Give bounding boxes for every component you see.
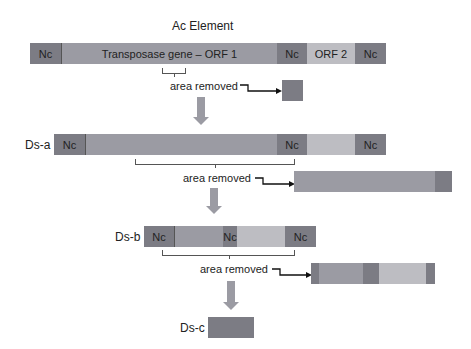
down-arrow-icon bbox=[193, 97, 209, 125]
ds-b-nc-left: Nc bbox=[144, 226, 174, 247]
ds-b-removed-bracket bbox=[162, 250, 295, 256]
ds-a-nc-middle-label: Nc bbox=[285, 139, 298, 151]
ac-removed-bracket bbox=[162, 68, 186, 74]
ac-removed-arrow-icon bbox=[238, 82, 282, 96]
down-arrow-icon bbox=[223, 281, 239, 310]
ac-element-bar: Nc Transposase gene – ORF 1 Nc ORF 2 Nc bbox=[30, 43, 386, 64]
ds-b-removed-arrow-icon bbox=[270, 266, 312, 280]
ds-a-orf1 bbox=[85, 134, 277, 155]
ds-a-nc-left-label: Nc bbox=[63, 139, 76, 151]
ds-b-removed-fragment bbox=[311, 263, 435, 284]
ac-orf1: Transposase gene – ORF 1 bbox=[61, 43, 277, 64]
ds-a-bar: Nc Nc Nc bbox=[54, 134, 386, 155]
ds-a-nc-middle: Nc bbox=[277, 134, 307, 155]
down-arrow-icon bbox=[206, 188, 222, 214]
ds-b-removed-label: area removed bbox=[200, 263, 268, 275]
ds-b-nc-right: Nc bbox=[285, 226, 316, 247]
ds-b-nc-middle-label: Nc bbox=[223, 231, 236, 243]
ac-removed-fragment bbox=[282, 80, 303, 101]
diagram-title: Ac Element bbox=[172, 19, 233, 33]
ds-a-nc-left: Nc bbox=[54, 134, 85, 155]
ds-a-orf2 bbox=[307, 134, 355, 155]
ds-a-removed-bracket bbox=[135, 159, 295, 165]
ac-orf1-label: Transposase gene – ORF 1 bbox=[102, 48, 237, 60]
ds-c-bar bbox=[208, 317, 254, 338]
ds-b-name: Ds-b bbox=[115, 230, 140, 244]
ac-orf2: ORF 2 bbox=[307, 43, 355, 64]
ds-b-orf2 bbox=[237, 226, 285, 247]
ds-a-nc-right: Nc bbox=[355, 134, 386, 155]
ds-b-nc-left-label: Nc bbox=[152, 231, 165, 243]
ac-nc-middle-label: Nc bbox=[285, 48, 298, 60]
ac-nc-right: Nc bbox=[355, 43, 386, 64]
ds-a-name: Ds-a bbox=[25, 138, 50, 152]
ds-a-removed-fragment bbox=[294, 171, 452, 192]
ds-b-nc-right-label: Nc bbox=[294, 231, 307, 243]
ac-nc-left: Nc bbox=[30, 43, 61, 64]
ds-a-removed-arrow-icon bbox=[253, 175, 295, 189]
ac-removed-label: area removed bbox=[170, 80, 238, 92]
ac-nc-middle: Nc bbox=[277, 43, 307, 64]
ac-nc-right-label: Nc bbox=[364, 48, 377, 60]
ac-orf2-label: ORF 2 bbox=[315, 48, 347, 60]
ds-b-bar: Nc Nc Nc bbox=[144, 226, 316, 247]
ds-a-removed-label: area removed bbox=[183, 172, 251, 184]
ds-a-nc-right-label: Nc bbox=[364, 139, 377, 151]
ac-nc-left-label: Nc bbox=[39, 48, 52, 60]
ds-b-orf1 bbox=[174, 226, 223, 247]
ds-b-nc-middle: Nc bbox=[223, 226, 237, 247]
ds-c-name: Ds-c bbox=[180, 321, 205, 335]
